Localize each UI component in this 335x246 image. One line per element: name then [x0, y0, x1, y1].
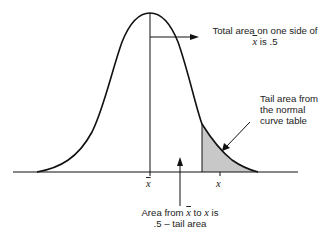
bottom-annotation-line1: Area from x to x is — [120, 207, 240, 218]
bottom-annotation-line2: .5 – tail area — [120, 218, 240, 229]
arrowhead-right-icon — [190, 34, 199, 40]
bottom-annotation: Area from x to x is .5 – tail area — [120, 207, 240, 229]
bottom-text-b: to — [191, 207, 204, 218]
tail-annotation: Tail area from the normal curve table — [260, 93, 318, 126]
top-annotation-line2: x is .5 — [206, 36, 324, 47]
mean-axis-label: x — [146, 178, 151, 189]
bottom-text-c: is — [209, 207, 219, 218]
x-axis-label: x — [216, 178, 221, 189]
arrowhead-up-icon — [177, 157, 183, 166]
bottom-text-a: Area from — [141, 207, 186, 218]
tail-annotation-line2: the normal — [260, 104, 318, 115]
tail-annotation-line1: Tail area from — [260, 93, 318, 104]
top-annotation: Total area on one side of x is .5 — [206, 25, 324, 47]
tail-annotation-line3: curve table — [260, 115, 318, 126]
top-annotation-line2-text: is .5 — [257, 36, 277, 47]
tail-pointer-arrow — [226, 122, 250, 147]
top-annotation-line1: Total area on one side of — [206, 25, 324, 36]
